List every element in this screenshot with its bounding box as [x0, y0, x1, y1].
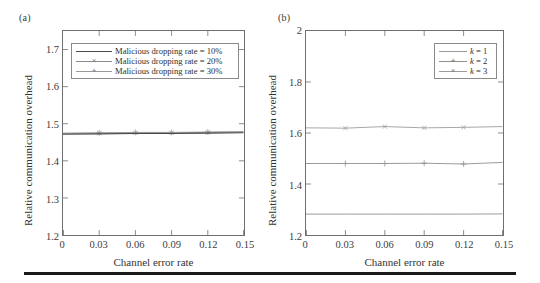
x-tick-label: 0.15: [495, 239, 513, 250]
legend-line-sample: +: [438, 56, 468, 66]
x-tick-label: 0.06: [126, 239, 144, 250]
legend-row: k = 1: [438, 46, 493, 56]
legend-row: × Malicious dropping rate = 20%: [75, 56, 235, 66]
y-tick-label: 1.5: [46, 118, 59, 129]
x-tick-label: 0.09: [415, 239, 433, 250]
legend-label: k = 2: [468, 56, 487, 66]
legend-line-sample: +: [75, 66, 113, 76]
y-tick-label: 1.2: [289, 231, 302, 242]
plus-marker-icon: +: [92, 67, 97, 75]
panel-b-series-k3: [306, 124, 503, 130]
x-tick-label: 0.06: [375, 239, 393, 250]
legend-var-k: k: [470, 46, 474, 56]
panel-a-label: (a): [19, 12, 31, 23]
panel-a-x-tick-labels: 0 0.03 0.06 0.09 0.12 0.15: [62, 239, 245, 255]
legend-label: k = 1: [468, 46, 487, 56]
panel-b-label: (b): [278, 12, 290, 23]
legend-row: + k = 2: [438, 56, 493, 66]
y-tick-label: 2: [297, 25, 302, 36]
x-marker-icon: ×: [451, 67, 456, 75]
y-tick-label: 1.4: [46, 156, 59, 167]
legend-var-k: k: [470, 56, 474, 66]
legend-label: Malicious dropping rate = 10%: [113, 46, 222, 56]
panel-b-series-k2: [306, 160, 503, 167]
panel-b-y-axis-title: Relative communication overhead: [266, 75, 278, 226]
y-tick-label: 1.3: [46, 193, 59, 204]
x-marker-icon: ×: [92, 57, 97, 65]
y-tick-label: 1.6: [289, 128, 302, 139]
legend-line-sample: [75, 46, 113, 56]
x-tick-label: 0.03: [336, 239, 354, 250]
legend-value: = 3: [476, 66, 487, 76]
legend-line-sample: ×: [75, 56, 113, 66]
legend-row: × k = 3: [438, 66, 493, 76]
panel-a-plot-area: Malicious dropping rate = 10% × Maliciou…: [62, 30, 245, 236]
panel-a-y-axis-title: Relative communication overhead: [22, 75, 34, 226]
legend-line-sample: [438, 46, 468, 56]
panel-b-y-tick-labels: 1.2 1.4 1.6 1.8 2: [276, 30, 302, 236]
panel-a-x-axis-title: Channel error rate: [62, 256, 245, 268]
y-tick-label: 1.8: [289, 76, 302, 87]
legend-line-sample: ×: [438, 66, 468, 76]
panel-b-x-axis-title: Channel error rate: [305, 256, 504, 268]
panel-b-y-ticks: [306, 82, 503, 184]
plus-marker-icon: +: [451, 57, 456, 65]
legend-label: Malicious dropping rate = 30%: [113, 66, 222, 76]
panel-b-legend: k = 1 + k = 2 × k = 3: [434, 43, 497, 79]
bottom-divider-rule: [24, 272, 516, 275]
panel-b: (b) 1.2 1.4 1.6 1.8 2 Relative communica…: [270, 0, 540, 283]
x-tick-label: 0: [302, 239, 307, 250]
figure-container: (a) 1.2 1.3 1.4 1.5 1.6 1.7 Relative com…: [0, 0, 540, 283]
y-tick-label: 1.4: [289, 179, 302, 190]
x-tick-label: 0.12: [199, 239, 217, 250]
legend-row: Malicious dropping rate = 10%: [75, 46, 235, 56]
legend-row: + Malicious dropping rate = 30%: [75, 66, 235, 76]
y-tick-label: 1.2: [46, 231, 59, 242]
x-tick-label: 0.03: [89, 239, 107, 250]
y-tick-label: 1.6: [46, 81, 59, 92]
panel-b-plot-area: k = 1 + k = 2 × k = 3: [305, 30, 504, 236]
panel-a-legend: Malicious dropping rate = 10% × Maliciou…: [71, 43, 239, 79]
x-tick-label: 0.12: [455, 239, 473, 250]
legend-value: = 1: [476, 46, 487, 56]
legend-value: = 2: [476, 56, 487, 66]
x-tick-label: 0.15: [236, 239, 254, 250]
legend-var-k: k: [470, 66, 474, 76]
y-tick-label: 1.7: [46, 43, 59, 54]
legend-label: k = 3: [468, 66, 487, 76]
panel-b-x-tick-labels: 0 0.03 0.06 0.09 0.12 0.15: [305, 239, 504, 255]
panel-a-y-tick-labels: 1.2 1.3 1.4 1.5 1.6 1.7: [33, 30, 59, 236]
legend-label: Malicious dropping rate = 20%: [113, 56, 222, 66]
x-tick-label: 0: [59, 239, 64, 250]
x-tick-label: 0.09: [163, 239, 181, 250]
panel-a: (a) 1.2 1.3 1.4 1.5 1.6 1.7 Relative com…: [0, 0, 270, 283]
